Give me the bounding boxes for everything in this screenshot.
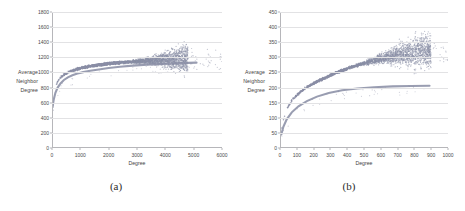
y-tick-mark-50 [278,132,280,133]
gridline-y-400 [280,27,448,28]
y-axis-title-b: AverageNeighborDegree [229,68,265,95]
y-axis-title-line-0: Average [229,68,265,77]
x-tick-label-700: 700 [393,152,401,158]
gridline-y-300 [280,57,448,58]
gridline-y-350 [280,42,448,43]
x-tick-label-800: 800 [410,152,418,158]
x-tick-label-400: 400 [343,152,351,158]
panel-b: AverageNeighborDegree 050100150200250300… [233,0,465,211]
x-tick-label-0: 0 [279,152,282,158]
gridline-y-200 [280,88,448,89]
x-tick-mark-400 [347,148,348,150]
gridline-y-50 [280,133,448,134]
x-tick-label-1000: 1000 [442,152,453,158]
x-tick-mark-500 [364,148,365,150]
gridline-y-200 [52,133,222,134]
x-tick-label-300: 300 [326,152,334,158]
y-tick-mark-200 [278,87,280,88]
gridline-y-100 [280,118,448,119]
y-tick-label-1000: 1000 [38,69,49,75]
x-tick-mark-600 [380,148,381,150]
x-tick-label-0: 0 [51,152,54,158]
y-tick-label-1400: 1400 [38,39,49,45]
y-tick-label-50: 50 [271,130,277,136]
y-tick-mark-1800 [50,12,52,13]
y-axis-title-line-0: Average [2,68,38,77]
x-tick-label-900: 900 [427,152,435,158]
scatter-series-a [52,12,222,148]
y-axis-title-line-2: Degree [2,86,38,95]
y-tick-mark-100 [278,117,280,118]
x-tick-mark-3000 [137,148,138,150]
gridline-y-150 [280,103,448,104]
y-tick-label-200: 200 [269,85,277,91]
x-tick-label-1000: 1000 [75,152,86,158]
y-tick-mark-600 [50,102,52,103]
y-tick-label-200: 200 [41,130,49,136]
gridline-y-250 [280,72,448,73]
y-tick-mark-450 [278,12,280,13]
y-tick-label-600: 600 [41,100,49,106]
x-tick-mark-6000 [222,148,223,150]
x-tick-mark-5000 [193,148,194,150]
y-tick-mark-1200 [50,57,52,58]
x-tick-mark-1000 [448,148,449,150]
y-tick-mark-1000 [50,72,52,73]
y-tick-mark-1400 [50,42,52,43]
y-tick-label-100: 100 [269,115,277,121]
x-tick-label-2000: 2000 [103,152,114,158]
x-tick-label-4000: 4000 [160,152,171,158]
y-tick-label-0: 0 [274,145,277,151]
scatter-series-b [280,12,448,148]
y-tick-mark-400 [278,27,280,28]
plot-area-b: 0501001502002503003504004500100200300400… [280,12,448,148]
y-tick-label-800: 800 [41,85,49,91]
y-tick-label-400: 400 [41,115,49,121]
gridline-y-400 [52,118,222,119]
gridline-y-1000 [52,72,222,73]
y-tick-mark-200 [50,132,52,133]
x-tick-mark-0 [52,148,53,150]
x-tick-mark-4000 [165,148,166,150]
x-tick-mark-1000 [80,148,81,150]
y-tick-label-150: 150 [269,100,277,106]
y-tick-label-300: 300 [269,54,277,60]
y-tick-label-1600: 1600 [38,24,49,30]
figure-two-panel-scatter: AverageNeighborDegree 020040060080010001… [0,0,465,211]
y-axis-title-line-1: Neighbor [2,77,38,86]
y-tick-label-400: 400 [269,24,277,30]
gridline-y-1400 [52,42,222,43]
y-axis-line-a [52,12,53,148]
x-tick-label-100: 100 [293,152,301,158]
y-tick-mark-1600 [50,27,52,28]
y-axis-title-line-2: Degree [229,86,265,95]
y-tick-mark-350 [278,42,280,43]
gridline-y-1200 [52,57,222,58]
x-tick-mark-700 [397,148,398,150]
x-tick-label-500: 500 [360,152,368,158]
x-axis-title-a: Degree [52,160,222,166]
x-tick-mark-200 [313,148,314,150]
y-tick-label-450: 450 [269,9,277,15]
y-axis-title-line-1: Neighbor [229,77,265,86]
y-tick-label-0: 0 [46,145,49,151]
gridline-y-450 [280,12,448,13]
plot-area-a: 0200400600800100012001400160018000100020… [52,12,222,148]
x-tick-mark-0 [280,148,281,150]
x-tick-label-600: 600 [377,152,385,158]
y-tick-label-350: 350 [269,39,277,45]
x-tick-mark-2000 [108,148,109,150]
panel-caption-b: (b) [233,180,465,192]
y-tick-mark-400 [50,117,52,118]
y-tick-mark-300 [278,57,280,58]
y-tick-mark-150 [278,102,280,103]
x-tick-label-200: 200 [309,152,317,158]
x-tick-mark-100 [296,148,297,150]
y-axis-line-b [280,12,281,148]
x-tick-mark-900 [431,148,432,150]
y-tick-label-1800: 1800 [38,9,49,15]
gridline-y-600 [52,103,222,104]
y-tick-label-250: 250 [269,69,277,75]
x-tick-mark-800 [414,148,415,150]
x-tick-label-6000: 6000 [216,152,227,158]
